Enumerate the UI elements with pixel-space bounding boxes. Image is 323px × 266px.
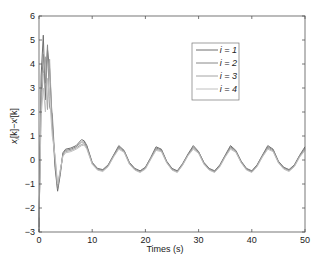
legend-label-1: i = 1 — [220, 45, 237, 55]
y-tick-label: 4 — [30, 59, 35, 69]
legend-label-3: i = 3 — [220, 71, 237, 81]
y-tick-label: −3 — [25, 227, 35, 237]
axes-background — [39, 16, 305, 232]
y-tick-label: 6 — [30, 11, 35, 21]
x-tick-label: 10 — [87, 235, 97, 245]
y-tick-label: 2 — [30, 107, 35, 117]
ylabel-mid: [k]−x — [9, 118, 19, 138]
legend: i = 1i = 2i = 3i = 4 — [192, 43, 239, 100]
y-tick-label: 5 — [30, 35, 35, 45]
line-chart: 01020304050−3−2−10123456 Times (s) xi[k]… — [0, 0, 323, 266]
x-tick-label: 40 — [247, 235, 257, 245]
x-tick-label: 30 — [194, 235, 204, 245]
y-tick-label: 1 — [30, 131, 35, 141]
ylabel-tail: [k] — [9, 108, 19, 118]
plot-area: 01020304050−3−2−10123456 — [25, 11, 310, 245]
x-axis-label: Times (s) — [146, 244, 183, 254]
y-tick-label: 3 — [30, 83, 35, 93]
y-tick-label: 0 — [30, 155, 35, 165]
y-tick-label: −1 — [25, 179, 35, 189]
legend-label-4: i = 4 — [220, 84, 237, 94]
legend-label-2: i = 2 — [220, 58, 237, 68]
x-tick-label: 50 — [300, 235, 310, 245]
y-tick-label: −2 — [25, 203, 35, 213]
x-tick-label: 0 — [36, 235, 41, 245]
